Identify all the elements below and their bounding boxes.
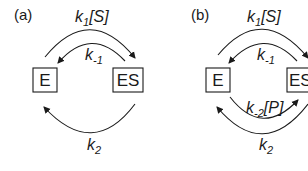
panel-b-label: (b) bbox=[191, 6, 209, 23]
panel-b: (b) k1[S] k-1 E ES k-2[P] k2 bbox=[191, 6, 308, 156]
enzyme-kinetics-diagram: (a) k1[S] k-1 E ES k2 (b) k1[S] k-1 bbox=[0, 0, 308, 171]
panel-a: (a) k1[S] k-1 E ES k2 bbox=[14, 6, 143, 156]
node-e-label: E bbox=[212, 71, 223, 90]
node-es-label: ES bbox=[289, 71, 308, 90]
rate-k2-label: k2 bbox=[87, 136, 101, 156]
panel-a-label: (a) bbox=[14, 6, 32, 23]
arrow-k2-forward bbox=[44, 104, 135, 133]
rate-k1-label: k1[S] bbox=[75, 8, 109, 28]
node-es-label: ES bbox=[117, 71, 140, 90]
rate-k-1-label: k-1 bbox=[257, 46, 275, 66]
rate-k2-label: k2 bbox=[259, 136, 273, 156]
rate-k1-label: k1[S] bbox=[247, 8, 281, 28]
node-e-label: E bbox=[39, 71, 50, 90]
rate-k-1-label: k-1 bbox=[85, 46, 103, 66]
